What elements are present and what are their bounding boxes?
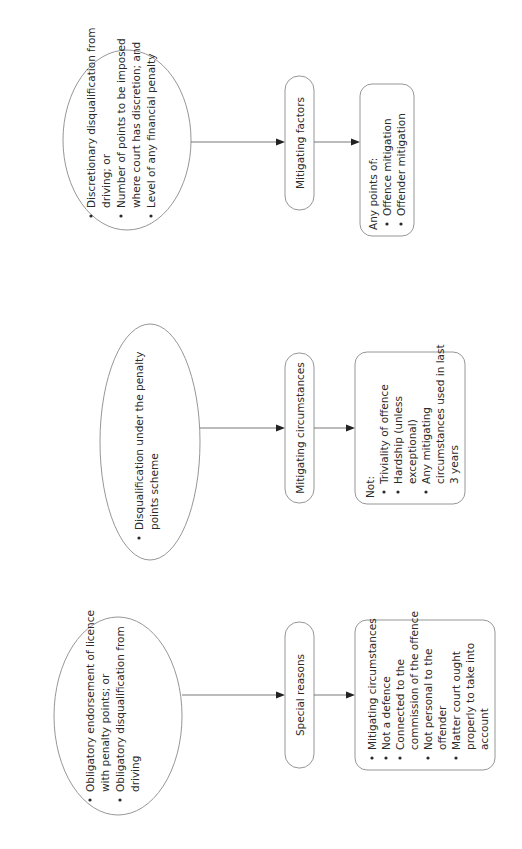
text-line: Obligatory endorsement of licence — [84, 610, 96, 792]
arrow-head — [276, 692, 285, 699]
text-line: Mitigating circumstances — [366, 618, 378, 750]
text-line: Number of points to be imposed — [115, 38, 127, 208]
text-line: properly to take into — [464, 643, 476, 750]
text-line: Matter court ought — [450, 651, 462, 750]
text-line: Not personal to the — [422, 648, 434, 750]
arrow-head — [276, 425, 285, 432]
text-line: points scheme — [148, 453, 160, 530]
flow-diagram: Obligatory endorsement of licence with p… — [0, 0, 522, 849]
pill-label: Mitigating circumstances — [294, 362, 306, 494]
text-line: driving; or — [100, 153, 112, 208]
ellipse-discretionary — [63, 50, 191, 230]
box-heading: Any points of: — [367, 158, 379, 230]
text-line: account — [478, 708, 490, 750]
box-heading: Not: — [364, 476, 376, 498]
text-line: Disqualification under the penalty — [133, 352, 145, 530]
arrow-head — [346, 425, 355, 432]
text-line: Offence mitigation — [381, 118, 393, 216]
arrow-head — [346, 692, 355, 699]
text-line: Offender mitigation — [395, 113, 407, 216]
text-line: Discretionary disqualification from — [85, 27, 97, 208]
ellipse-text: Discretionary disqualification from driv… — [85, 27, 157, 217]
column-mitigating-circumstances: Disqualification under the penalty point… — [100, 324, 465, 560]
text-line: where court has discretion; and — [130, 42, 142, 208]
text-line: offender — [436, 705, 448, 750]
text-line: driving — [129, 756, 141, 792]
pill-label: Mitigating factors — [294, 97, 306, 189]
text-line: Level of any financial penalty — [145, 54, 157, 208]
pill-label: Special reasons — [294, 654, 306, 736]
text-line: with penalty points; or — [99, 673, 111, 792]
text-line: Not a defence — [380, 676, 392, 750]
text-line: Connected to the — [394, 659, 406, 750]
arrow-head — [276, 139, 285, 146]
text-line: Obligatory disqualification from — [114, 626, 126, 792]
column-special-reasons: Obligatory endorsement of licence with p… — [54, 610, 495, 815]
text-line: Hardship (unless — [392, 396, 404, 484]
text-line: Any mitigating — [420, 407, 432, 484]
text-line: Triviality of offence — [378, 384, 390, 485]
text-line: exceptional) — [406, 419, 418, 484]
text-line: circumstances used in last — [434, 344, 446, 484]
column-mitigating-factors: Discretionary disqualification from driv… — [63, 27, 414, 236]
text-line: commission of the offence — [408, 611, 420, 750]
arrow-head — [351, 139, 360, 146]
text-line: 3 years — [448, 445, 460, 484]
